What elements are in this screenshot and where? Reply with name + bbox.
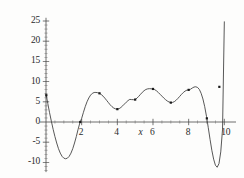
y-axis-tick-label: 20 <box>31 36 40 46</box>
x-axis-label: x <box>138 128 142 138</box>
data-point-marker <box>45 94 47 96</box>
y-axis-tick-label: 5 <box>35 97 40 107</box>
data-curve <box>46 22 224 167</box>
data-point-marker <box>218 86 220 88</box>
data-point-marker <box>206 117 208 119</box>
x-axis-tick-label: 10 <box>221 128 230 138</box>
data-point-marker <box>170 102 172 104</box>
y-axis-tick-label: -5 <box>32 137 40 147</box>
chart-plot-area <box>0 0 244 178</box>
data-point-marker <box>188 89 190 91</box>
data-point-marker <box>98 92 100 94</box>
curve-layer <box>46 22 224 167</box>
data-point-marker <box>79 121 81 123</box>
x-axis-tick-label: 4 <box>114 128 119 138</box>
y-axis-tick-label: 15 <box>31 56 40 66</box>
y-axis-tick-label: 25 <box>31 16 40 26</box>
data-point-marker <box>116 108 118 110</box>
y-axis-tick-label: -10 <box>28 157 40 167</box>
y-axis-tick-label: 10 <box>31 77 40 87</box>
axes-layer <box>40 18 236 172</box>
y-axis-tick-label: 0 <box>35 117 40 127</box>
x-axis-tick-label: 2 <box>79 128 84 138</box>
data-point-marker <box>152 88 154 90</box>
marker-layer <box>45 86 220 123</box>
data-point-marker <box>134 98 136 100</box>
x-axis-tick-label: 6 <box>150 128 155 138</box>
chart-figure: -10-50510152025246810 x <box>0 0 244 178</box>
x-axis-tick-label: 8 <box>186 128 191 138</box>
